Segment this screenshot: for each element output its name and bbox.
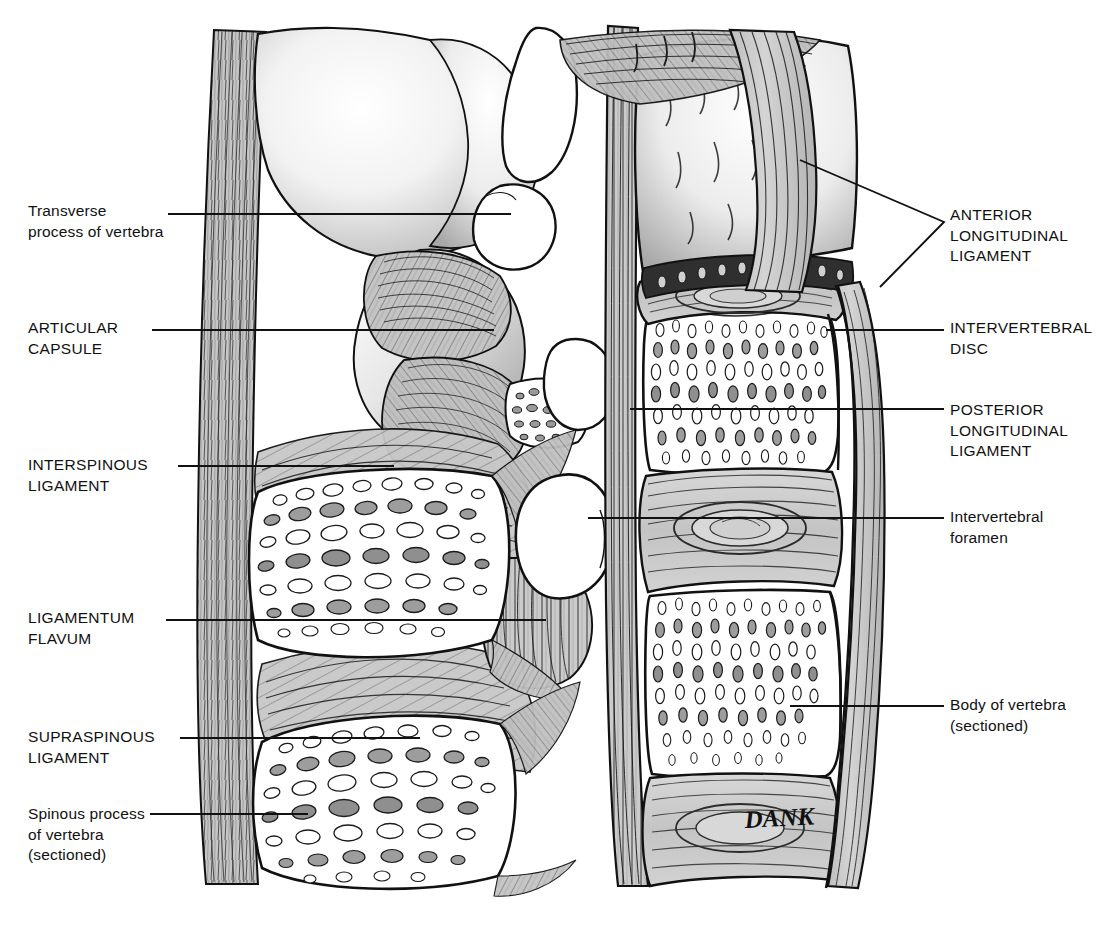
anatomical-illustration: DANK (0, 0, 1118, 929)
intervertebral-disc-lower (639, 469, 842, 592)
spinous-process-sectioned-lower (253, 716, 516, 889)
label-anterior-longitudinal-ligament: ANTERIOR LONGITUDINAL LIGAMENT (950, 205, 1068, 267)
label-ligamentum-flavum: LIGAMENTUM FLAVUM (28, 608, 134, 649)
label-supraspinous-ligament: SUPRASPINOUS LIGAMENT (28, 727, 155, 768)
intervertebral-foramen (516, 474, 614, 598)
label-spinous-process: Spinous process of vertebra (sectioned) (28, 804, 145, 866)
artist-signature: DANK (743, 802, 817, 833)
illustration-page: DANK Transverse process of vertebra ARTI… (0, 0, 1118, 929)
label-transverse-process: Transverse process of vertebra (28, 201, 164, 242)
spinous-process-sectioned-upper (249, 469, 509, 657)
signature-text: DANK (743, 802, 817, 833)
intervertebral-disc-bottom (643, 774, 841, 887)
label-interspinous-ligament: INTERSPINOUS LIGAMENT (28, 455, 148, 496)
articular-capsule (364, 251, 511, 361)
label-intervertebral-disc: INTERVERTEBRAL DISC (950, 318, 1092, 359)
label-intervertebral-foramen: Intervertebral foramen (950, 507, 1043, 548)
body-of-vertebra-upper (643, 312, 838, 475)
label-articular-capsule: ARTICULAR CAPSULE (28, 318, 118, 359)
body-of-vertebra-lower (645, 590, 840, 779)
label-body-of-vertebra: Body of vertebra (sectioned) (950, 695, 1066, 736)
label-posterior-longitudinal-ligament: POSTERIOR LONGITUDINAL LIGAMENT (950, 400, 1068, 462)
intervertebral-foramen-upper (544, 339, 614, 430)
